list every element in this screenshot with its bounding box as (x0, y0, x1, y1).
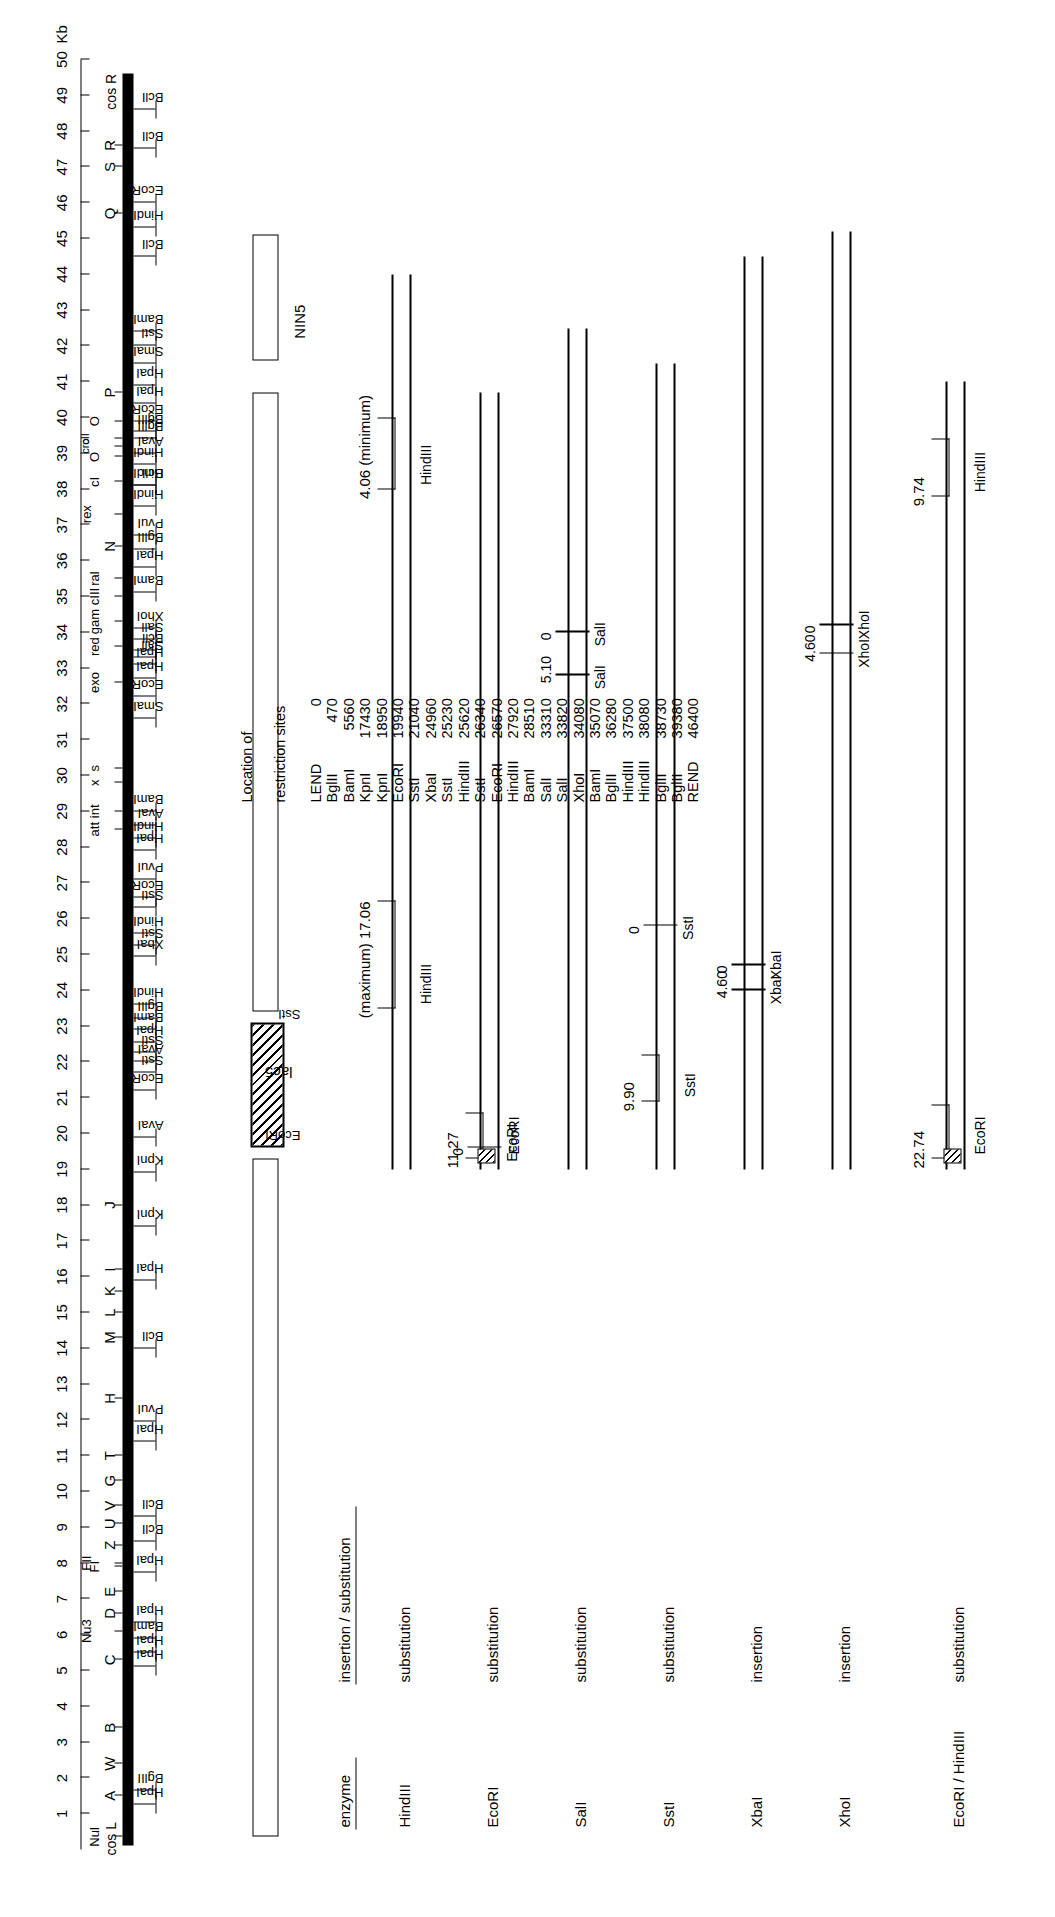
site-table-enzyme: BglII (602, 738, 618, 802)
kb-tick-label: 25 (52, 945, 69, 962)
gene-boundary-tick (114, 212, 122, 213)
kb-tick-label: 38 (52, 480, 69, 497)
gene-label: int (86, 804, 101, 818)
derivative-marker-site: SalI (591, 665, 607, 689)
derivative-marker-value: 0 (713, 965, 729, 973)
site-leader-line (133, 1347, 155, 1348)
site-table-row: SstI21040 (405, 698, 421, 802)
gene-boundary-tick (114, 1612, 122, 1613)
derivative-marker-value: 4.60 (801, 634, 817, 661)
site-table-enzyme: BglII (323, 738, 339, 802)
derivative-length-label: 22.74 (909, 1131, 926, 1169)
kb-tick-label: 21 (52, 1089, 69, 1106)
site-leader-line (133, 1420, 155, 1421)
site-table-row: BglII39380 (668, 698, 684, 802)
site-table-position: 24960 (422, 698, 438, 738)
kb-tick-label: 30 (52, 766, 69, 783)
site-leader-line (133, 484, 155, 485)
site-table-position: 17430 (356, 698, 372, 738)
site-table-position: 46400 (684, 698, 700, 738)
kb-tick (80, 1347, 89, 1348)
kb-tick-label: 45 (52, 229, 69, 246)
kb-tick (80, 273, 89, 274)
derivative-length-bracket (377, 900, 395, 1007)
site-table-row: SstI25230 (438, 698, 454, 802)
gene-boundary-tick (114, 1762, 122, 1763)
kb-tick (80, 1383, 89, 1384)
kb-tick-label: 39 (52, 444, 69, 461)
gene-label: ral (86, 571, 101, 585)
gene-boundary-tick (114, 620, 122, 621)
site-leader-line (133, 1071, 155, 1072)
site-leader-line (133, 1571, 155, 1572)
site-table-row: XbaI24960 (422, 698, 438, 802)
site-leader-line (133, 108, 155, 109)
site-table-row: BamI5560 (340, 698, 356, 802)
kb-tick (80, 488, 89, 489)
kb-tick (80, 702, 89, 703)
gene-label: x (86, 779, 101, 786)
kb-tick (80, 559, 89, 560)
restriction-site-label: AvaI (137, 433, 163, 448)
gene-boundary-tick (114, 480, 122, 481)
kb-tick (80, 237, 89, 238)
site-table-row: BglII36280 (602, 698, 618, 802)
site-table-position: 25230 (438, 698, 454, 738)
site-table-position: 26340 (471, 698, 487, 738)
site-table-header: Location of restriction sites (222, 698, 304, 802)
gene-boundary-tick (114, 645, 122, 646)
kb-tick-label: 5 (52, 1666, 69, 1675)
site-leader-line (133, 677, 155, 678)
site-leader-line (133, 1789, 155, 1790)
site-table-position: 18950 (373, 698, 389, 738)
kb-tick (80, 1132, 89, 1133)
site-leader-line (133, 566, 155, 567)
derivative-genome-line (945, 381, 947, 1169)
restriction-site-label: HpaI (136, 365, 163, 380)
site-table-position: 21040 (405, 698, 421, 738)
kb-tick (80, 1096, 89, 1097)
site-table-enzyme: XhoI (570, 738, 586, 802)
derivative-enzyme-label: HindIII (395, 1784, 412, 1827)
site-table-enzyme: BamI (586, 738, 602, 802)
kb-tick (80, 1705, 89, 1706)
gene-boundary-tick (114, 513, 122, 514)
restriction-site-label: BclI (141, 89, 163, 104)
kb-tick-label: 11 (52, 1447, 69, 1463)
site-leader-line (133, 1279, 155, 1280)
site-table-position: 37500 (619, 698, 635, 738)
kb-tick (80, 1741, 89, 1742)
site-leader-line (133, 148, 155, 149)
kb-tick (80, 1490, 89, 1491)
kb-tick (80, 380, 89, 381)
gene-label: att (86, 821, 101, 835)
restriction-site-label: HindIII (125, 913, 163, 928)
kb-tick (80, 1776, 89, 1777)
site-leader-line (133, 627, 155, 628)
gene-boundary-tick (114, 1794, 122, 1795)
gene-label: cI (86, 476, 101, 486)
kb-tick (80, 1060, 89, 1061)
kb-tick (80, 774, 89, 775)
derivative-length-bracket (377, 417, 395, 489)
kb-tick-label: 18 (52, 1196, 69, 1213)
derivative-length-site: HindIII (417, 963, 433, 1003)
derivative-marker-tick (731, 988, 765, 990)
restriction-site-label: BamI (133, 311, 163, 326)
gene-label: O (86, 416, 101, 426)
restriction-site-label: HindIII (125, 207, 163, 222)
derivative-marker-tick (731, 963, 765, 965)
kb-tick-label: 19 (52, 1160, 69, 1177)
derivative-type-label: substitution (571, 1606, 588, 1682)
restriction-site-label: PvuI (137, 859, 163, 874)
restriction-site-label: BglII (137, 529, 163, 544)
gene-boundary-tick (114, 828, 122, 829)
kb-tick-label: 9 (52, 1523, 69, 1532)
derivative-marker-value: 0 (801, 625, 817, 633)
lac5-right-site-label: SstI (278, 1006, 300, 1021)
site-table-position: 0 (307, 698, 323, 738)
site-table-position: 5560 (340, 698, 356, 738)
restriction-site-label: BamI (133, 791, 163, 806)
kb-unit-label: Kb (52, 25, 69, 43)
lambda-restriction-map-figure: 1234567891011121314151617181920212223242… (0, 0, 1055, 1917)
